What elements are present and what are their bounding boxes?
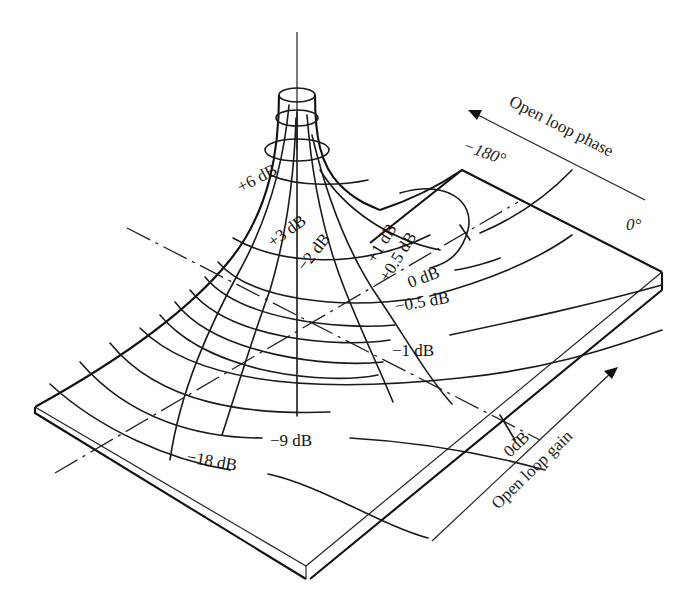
contour-label-m9: −9 dB: [270, 431, 312, 450]
gain-axis: Open loop gain 0dB: [432, 367, 618, 541]
phase-axis-label: Open loop phase: [506, 92, 616, 161]
contour-label-0db: 0 dB: [405, 263, 442, 292]
contour-label-m2: −2 dB: [293, 230, 334, 275]
gain-axis-label: Open loop gain: [488, 426, 577, 513]
base-plane: [35, 170, 662, 579]
nichols-surface-diagram: Open loop phase −180° 0° Open loop gain …: [0, 0, 691, 601]
contour-label-m18: −18 dB: [185, 447, 238, 475]
contour-label-m05: −0.5 dB: [393, 288, 450, 316]
phase-arrow-head-icon: [468, 110, 482, 120]
phase-axis: Open loop phase −180° 0°: [461, 92, 645, 234]
diagram-canvas: Open loop phase −180° 0° Open loop gain …: [0, 0, 691, 601]
contour-label-m1: −1 dB: [392, 341, 434, 360]
gain-zero-label: 0dB: [500, 428, 534, 461]
phase-end-label: 0°: [626, 215, 642, 234]
phase-start-label: −180°: [461, 136, 509, 169]
